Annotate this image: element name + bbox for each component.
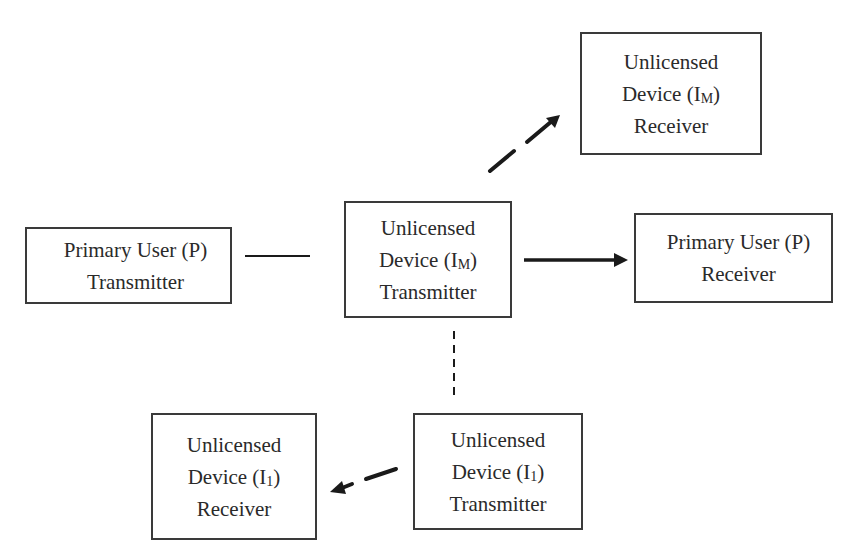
node-label-line1: Unlicensed [381,212,475,244]
node-label-line1: Unlicensed [451,424,545,456]
node-im-receiver: Unlicensed Device (IM) Receiver [580,32,762,155]
edge-i1-tx-to-i1-rx [330,469,396,494]
label-suffix: ) [273,465,280,489]
edge-im-tx-to-im-rx [490,115,560,171]
label-prefix: Device (I [622,82,701,106]
label-prefix: Device (I [452,460,531,484]
node-label-line3: Transmitter [379,276,476,308]
node-i1-transmitter: Unlicensed Device (I1) Transmitter [413,413,583,530]
node-label-line2: Device (IM) [622,78,720,110]
label-suffix: ) [537,460,544,484]
node-label-line1: Unlicensed [187,429,281,461]
node-pu-receiver: Primary User (P) Receiver [634,213,833,303]
node-label-line1: Primary User (P) [667,226,810,258]
arrowhead-icon [330,481,346,494]
label-suffix: ) [713,82,720,106]
label-subscript: M [458,257,470,272]
arrowhead-icon [614,253,628,267]
node-label-line3: Receiver [634,110,709,142]
label-prefix: Device (I [188,465,267,489]
node-label-line2: Receiver [701,258,776,290]
node-label-line1: Primary User (P) [64,234,207,266]
node-im-transmitter: Unlicensed Device (IM) Transmitter [344,201,512,318]
label-suffix: ) [470,248,477,272]
node-label-line2: Device (IM) [379,244,477,276]
label-subscript: M [701,91,713,106]
node-label-line3: Receiver [197,493,272,525]
label-prefix: Device (I [379,248,458,272]
node-pu-transmitter: Primary User (P) Transmitter [25,227,232,304]
node-label-line2: Device (I1) [452,456,545,488]
edge-im-tx-to-pu-rx [524,253,628,267]
node-label-line3: Transmitter [449,488,546,520]
node-label-line2: Transmitter [87,266,184,298]
node-label-line1: Unlicensed [624,46,718,78]
node-label-line2: Device (I1) [188,461,281,493]
node-i1-receiver: Unlicensed Device (I1) Receiver [151,413,317,540]
